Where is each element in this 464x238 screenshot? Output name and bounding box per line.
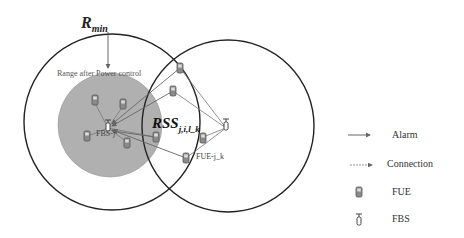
fue-icon	[124, 138, 130, 148]
range-after-power-control-label: Range after Power control	[57, 69, 141, 78]
fbs-j-label: FBS-j	[96, 129, 115, 138]
legend-alarm-label: Alarm	[392, 129, 418, 140]
fue-icon	[92, 95, 98, 105]
legend-connection-label: Connection	[387, 158, 433, 169]
fue-icon	[200, 133, 206, 143]
fue-icon	[120, 99, 126, 109]
fue-icon	[170, 86, 176, 96]
fbs-k-icon	[223, 119, 229, 130]
fue-icon	[84, 131, 90, 141]
fue-j-k-label: FUE-j_k	[196, 152, 224, 161]
fue-icon	[183, 153, 189, 163]
rss-label: RSSj,i,l_k	[152, 115, 200, 134]
r-min-label: Rmin	[81, 14, 108, 34]
legend-fbs-icon	[356, 214, 362, 225]
legend-fue-icon	[356, 187, 362, 197]
legend-fue-label: FUE	[392, 186, 411, 197]
fue-icon	[177, 63, 183, 73]
legend-fbs-label: FBS	[392, 213, 410, 224]
network-diagram	[0, 0, 464, 238]
